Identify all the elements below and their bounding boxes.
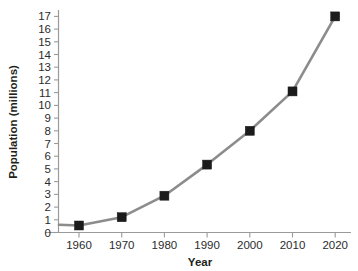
data-point-1960 [75, 221, 84, 230]
population-line [59, 16, 335, 225]
y-tick-label-9: 9 [45, 112, 51, 124]
data-markers [75, 12, 340, 230]
y-tick-label-12: 12 [38, 74, 51, 86]
y-tick-label-11: 11 [39, 87, 51, 99]
y-tick-label-4: 4 [45, 176, 52, 188]
x-tick-label-2020: 2020 [322, 239, 348, 251]
y-tick-label-16: 16 [38, 23, 51, 35]
data-point-1970 [117, 213, 126, 222]
y-tick-label-14: 14 [38, 49, 51, 61]
y-axis-title: Population (millions) [7, 65, 19, 179]
y-tick-label-1: 1 [45, 214, 51, 226]
x-axis-ticks: 1960 1970 1980 1990 2000 2010 2020 [66, 233, 348, 252]
y-tick-label-17: 17 [38, 10, 51, 22]
y-tick-label-0: 0 [45, 227, 51, 239]
data-point-1980 [160, 191, 169, 200]
y-tick-label-3: 3 [45, 188, 51, 200]
x-tick-label-1980: 1980 [152, 239, 178, 251]
line-chart-figure: 0 1 2 3 4 5 6 7 8 9 10 11 12 13 [0, 0, 358, 271]
y-tick-label-5: 5 [45, 163, 51, 175]
x-tick-label-2000: 2000 [237, 239, 263, 251]
x-tick-label-1990: 1990 [194, 239, 220, 251]
x-axis-title: Year [188, 256, 213, 268]
x-tick-label-1960: 1960 [66, 239, 92, 251]
y-tick-label-13: 13 [38, 61, 51, 73]
chart-canvas: 0 1 2 3 4 5 6 7 8 9 10 11 12 13 [0, 0, 358, 271]
data-point-1990 [203, 160, 212, 169]
y-tick-label-2: 2 [45, 201, 51, 213]
y-tick-label-15: 15 [38, 36, 51, 48]
data-point-2000 [245, 126, 254, 135]
y-axis-ticks: 0 1 2 3 4 5 6 7 8 9 10 11 12 13 [38, 10, 58, 238]
y-tick-label-6: 6 [45, 150, 51, 162]
y-tick-label-8: 8 [45, 125, 51, 137]
data-point-2010 [288, 87, 297, 96]
data-point-2020 [331, 12, 340, 21]
x-tick-label-1970: 1970 [109, 239, 135, 251]
y-tick-label-10: 10 [38, 99, 51, 111]
x-tick-label-2010: 2010 [280, 239, 306, 251]
y-tick-label-7: 7 [45, 138, 51, 150]
